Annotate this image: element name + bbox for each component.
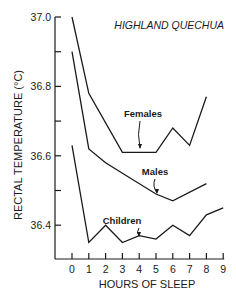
arrow-icon [139,121,141,148]
axis-labels: 37.036.836.636.40123456789 [31,11,227,275]
y-tick-label: 36.6 [31,150,52,162]
x-tick-label: 6 [170,263,176,275]
series-females [72,17,206,152]
annotations: FemalesMalesChildren [103,108,168,237]
series-lines [72,17,223,243]
chart-title: HIGHLAND QUECHUA [114,19,224,31]
x-tick-label: 0 [69,263,75,275]
annotation-children: Children [103,215,142,226]
arrowhead-icon [138,144,142,149]
x-tick-label: 7 [187,263,193,275]
x-tick-label: 1 [86,263,92,275]
x-tick-label: 4 [136,263,142,275]
x-tick-label: 5 [153,263,159,275]
temperature-chart: 37.036.836.636.40123456789 FemalesMalesC… [0,0,236,299]
x-tick-label: 9 [220,263,226,275]
y-tick-label: 37.0 [31,11,52,23]
series-children [72,145,223,242]
y-tick-label: 36.4 [31,219,52,231]
x-tick-label: 8 [203,263,209,275]
y-tick-label: 36.8 [31,80,52,92]
annotation-males: Males [142,166,168,177]
annotation-females: Females [124,108,162,119]
x-tick-label: 3 [119,263,125,275]
y-axis-label: RECTAL TEMPERATURE (°C) [12,70,24,220]
x-tick-label: 2 [103,263,109,275]
x-axis-label: HOURS OF SLEEP [99,278,196,290]
